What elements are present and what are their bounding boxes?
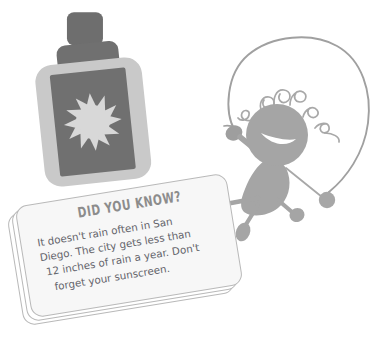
bottle-cap bbox=[67, 12, 103, 45]
illustration-scene: DID YOU KNOW? It doesn't rain often in S… bbox=[0, 0, 386, 347]
fact-card-group: DID YOU KNOW? It doesn't rain often in S… bbox=[8, 183, 240, 318]
fact-card: DID YOU KNOW? It doesn't rain often in S… bbox=[14, 173, 243, 319]
